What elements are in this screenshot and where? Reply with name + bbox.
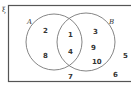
element-outside: 7 <box>68 73 73 81</box>
element-a-only: 2 <box>43 27 48 35</box>
set-a-circle <box>26 14 82 70</box>
element-intersection: 4 <box>68 48 73 56</box>
universal-set-label: ξ <box>2 6 6 14</box>
set-b-label: B <box>108 18 114 26</box>
element-a-only: 8 <box>43 52 48 60</box>
element-b-only: 9 <box>91 44 96 52</box>
element-outside: 6 <box>113 71 118 79</box>
element-b-only: 3 <box>93 28 98 36</box>
set-b-circle <box>57 13 115 71</box>
element-intersection: 1 <box>68 31 73 39</box>
element-b-only: 10 <box>92 58 102 66</box>
venn-diagram: ξ A B 2 8 1 4 3 9 10 5 7 6 <box>0 0 131 88</box>
set-a-label: A <box>26 18 32 26</box>
element-outside: 5 <box>123 52 128 60</box>
